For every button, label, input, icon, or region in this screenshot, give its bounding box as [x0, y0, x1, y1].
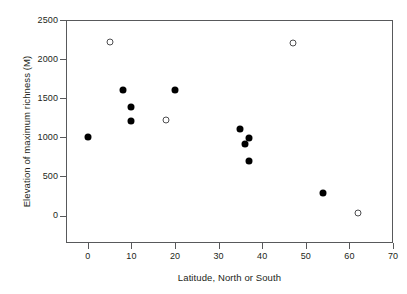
x-axis-tick-label: 60: [344, 252, 354, 261]
plot-area-frame: [66, 20, 393, 243]
x-axis-tick: [88, 243, 89, 249]
y-axis-tick: [60, 20, 66, 21]
y-axis-tick-label: 1000: [38, 133, 58, 142]
y-axis-tick: [60, 59, 66, 60]
y-axis-tick-label: 0: [53, 211, 58, 220]
scatter-plot-figure: 05001000150020002500 010203040506070 Lat…: [0, 0, 407, 294]
x-axis-tick-label: 40: [257, 252, 267, 261]
x-axis-tick-label: 70: [388, 252, 398, 261]
y-axis-tick-label: 500: [43, 172, 58, 181]
x-axis-tick: [131, 243, 132, 249]
x-axis-tick-label: 30: [213, 252, 223, 261]
x-axis-tick: [349, 243, 350, 249]
y-axis-tick: [60, 216, 66, 217]
x-axis-tick: [306, 243, 307, 249]
y-axis-tick: [60, 98, 66, 99]
x-axis-tick-label: 50: [301, 252, 311, 261]
x-axis-tick-label: 0: [85, 252, 90, 261]
y-axis-tick-label: 2500: [38, 16, 58, 25]
y-axis-title: Elevation of maximum richness (M): [20, 20, 34, 243]
y-axis-tick-label: 2000: [38, 55, 58, 64]
x-axis-tick: [175, 243, 176, 249]
x-axis-tick: [219, 243, 220, 249]
x-axis-tick-label: 10: [126, 252, 136, 261]
x-axis-tick-label: 20: [170, 252, 180, 261]
y-axis-tick-label: 1500: [38, 94, 58, 103]
y-axis-tick: [60, 137, 66, 138]
x-axis-title: Latitude, North or South: [66, 272, 393, 283]
y-axis-tick: [60, 176, 66, 177]
x-axis-tick: [262, 243, 263, 249]
x-axis-tick: [393, 243, 394, 249]
